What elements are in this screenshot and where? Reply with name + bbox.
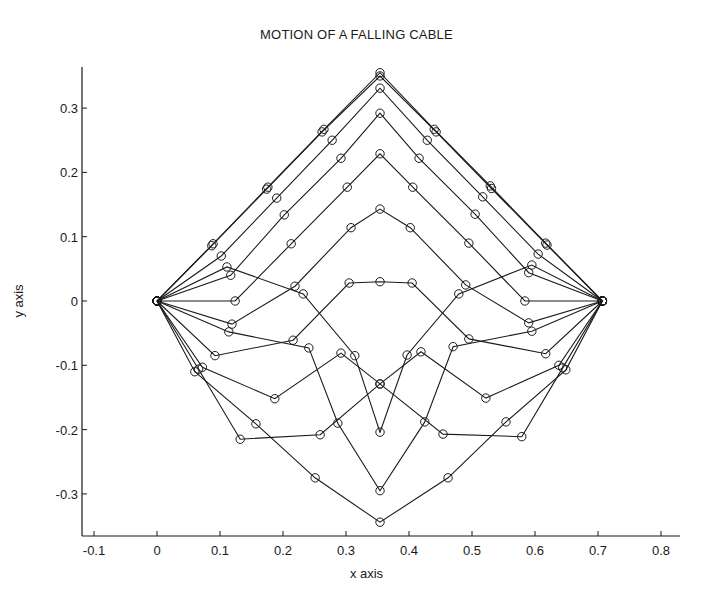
x-tick-label: 0.2 [274,543,292,558]
x-tick-label: 0.5 [463,543,481,558]
y-tick-label: 0.2 [60,165,78,180]
x-tick-label: -0.1 [83,543,105,558]
x-tick-label: 0.6 [526,543,544,558]
series-line [157,282,602,356]
x-tick-label: 0.8 [652,543,670,558]
x-tick-label: 0.3 [337,543,355,558]
series-line [157,154,602,301]
x-tick-label: 0 [153,543,160,558]
y-tick-label: -0.1 [56,358,78,373]
x-tick-label: 0.1 [211,543,229,558]
axes: -0.100.10.20.30.40.50.60.70.80.30.20.10-… [56,67,680,558]
y-tick-label: -0.2 [56,423,78,438]
x-tick-label: 0.4 [400,543,418,558]
plot-area: -0.100.10.20.30.40.50.60.70.80.30.20.10-… [0,0,713,603]
data-series [153,69,607,527]
series-line [157,113,602,301]
y-tick-label: 0.3 [60,101,78,116]
y-tick-label: 0.1 [60,230,78,245]
y-tick-label: 0 [71,294,78,309]
series-line [157,265,602,432]
x-tick-label: 0.7 [589,543,607,558]
y-tick-label: -0.3 [56,487,78,502]
